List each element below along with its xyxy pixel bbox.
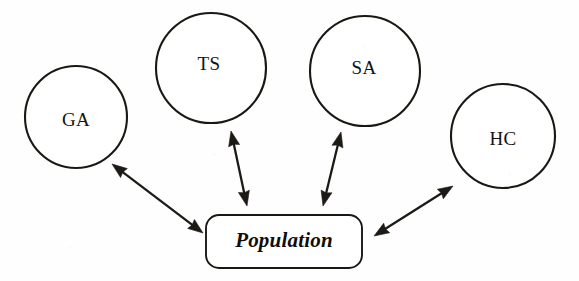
node-hc[interactable]: HC: [451, 84, 555, 188]
diagram-svg: GATSSAHC Population: [0, 0, 579, 281]
edge-sa-population: [321, 132, 343, 206]
node-ts[interactable]: TS: [156, 13, 266, 123]
edge-ts-population: [229, 131, 250, 206]
edge-ga-population: [112, 164, 203, 233]
node-hc-label: HC: [490, 128, 517, 149]
node-sa-label: SA: [352, 57, 377, 78]
node-ts-label: TS: [198, 53, 221, 74]
edge-hc-population: [374, 186, 453, 236]
node-ga[interactable]: GA: [25, 66, 127, 168]
node-sa[interactable]: SA: [310, 16, 420, 126]
node-ga-label: GA: [62, 109, 90, 130]
center-node-population[interactable]: Population: [206, 215, 362, 268]
diagram-canvas: GATSSAHC Population: [0, 0, 579, 281]
population-label: Population: [234, 228, 333, 252]
nodes-group: GATSSAHC: [25, 13, 555, 188]
